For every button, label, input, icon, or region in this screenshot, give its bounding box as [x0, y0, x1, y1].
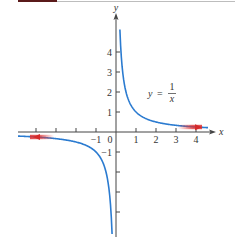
x-tick-label: −1 — [91, 134, 102, 145]
function-label-lhs: y — [147, 88, 153, 99]
x-tick-label: 2 — [154, 134, 159, 145]
x-tick-label: 1 — [134, 134, 139, 145]
y-tick-label: 4 — [107, 47, 112, 58]
labels: 01234−11234−1yxy=1x — [91, 2, 224, 158]
x-tick-label: 3 — [174, 134, 179, 145]
y-tick-label: 2 — [107, 87, 112, 98]
function-label-eq: = — [157, 88, 163, 99]
x-tick-label: 0 — [108, 134, 113, 145]
x-tick-label: 4 — [194, 134, 199, 145]
y-tick-label: 1 — [107, 107, 112, 118]
curve-positive-branch — [120, 29, 208, 127]
y-tick-label: 3 — [107, 67, 112, 78]
plot-area: 01234−11234−1yxy=1x — [0, 0, 235, 245]
function-label-denominator: x — [169, 93, 175, 104]
function-label-numerator: 1 — [170, 81, 175, 92]
x-axis-label: x — [218, 126, 224, 137]
y-tick-label: −1 — [101, 147, 112, 158]
curve-negative-branch — [18, 136, 112, 234]
y-axis-label: y — [113, 2, 119, 13]
